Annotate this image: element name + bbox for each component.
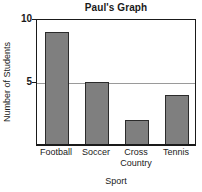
chart-title: Paul's Graph <box>36 2 196 14</box>
x-tick-label: Football <box>36 147 76 158</box>
bar <box>45 32 70 145</box>
bars-container <box>37 20 195 145</box>
x-axis-tick-labels: FootballSoccerCrossCountryTennis <box>36 147 196 175</box>
bar <box>125 120 150 145</box>
x-tick-label: CrossCountry <box>116 147 156 169</box>
y-axis-tick-labels: 10 5 <box>10 0 32 192</box>
y-tick-label-5: 5 <box>12 77 32 87</box>
x-axis-line <box>36 144 196 146</box>
plot-area <box>36 19 196 145</box>
bar <box>85 82 110 145</box>
y-tick-label-10: 10 <box>12 14 32 24</box>
bar-chart: Paul's Graph Number of Students 10 5 Foo… <box>0 0 202 192</box>
x-tick-label: Tennis <box>156 147 196 158</box>
x-tick-label: Soccer <box>76 147 116 158</box>
x-axis-title: Sport <box>36 176 196 187</box>
bar <box>165 95 190 145</box>
